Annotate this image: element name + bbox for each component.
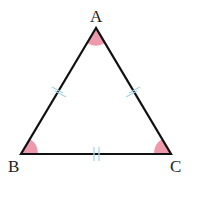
triangle-abc — [21, 28, 171, 154]
vertex-label-b: B — [8, 157, 19, 176]
vertex-label-a: A — [90, 7, 103, 26]
vertex-label-c: C — [170, 157, 181, 176]
triangle-diagram: A B C — [0, 0, 199, 202]
